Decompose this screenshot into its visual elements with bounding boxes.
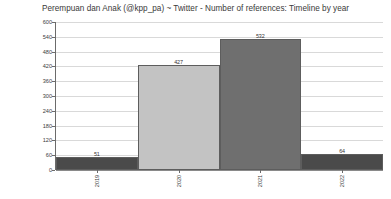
y-tick-label: 540 <box>22 34 52 40</box>
x-tick-label: 2021 <box>255 171 265 191</box>
y-tick-label: 0 <box>22 167 52 173</box>
bar[interactable]: 51 <box>56 157 138 170</box>
bar-value-label: 64 <box>302 148 382 155</box>
x-axis-ticks: 2019202020212022 <box>56 170 383 199</box>
bar-value-label: 427 <box>139 59 219 66</box>
y-tick-label: 360 <box>22 78 52 84</box>
y-tick-label: 240 <box>22 108 52 114</box>
bar-chart: Perempuan dan Anak (@kpp_pa) ~ Twitter -… <box>0 0 391 199</box>
y-tick-label: 180 <box>22 123 52 129</box>
chart-title: Perempuan dan Anak (@kpp_pa) ~ Twitter -… <box>0 4 391 13</box>
y-tick-label: 300 <box>22 93 52 99</box>
x-tick-label: 2020 <box>174 171 184 191</box>
plot-area: 5142753264 <box>56 22 383 170</box>
bar-value-label: 532 <box>221 33 301 40</box>
x-tick-label: 2019 <box>92 171 102 191</box>
y-tick-label: 120 <box>22 137 52 143</box>
bar[interactable]: 64 <box>301 154 383 170</box>
y-tick-label: 60 <box>22 152 52 158</box>
y-tick-label: 480 <box>22 49 52 55</box>
bar-value-label: 51 <box>57 151 137 158</box>
x-tick-label: 2022 <box>337 171 347 191</box>
y-tick-label: 600 <box>22 19 52 25</box>
y-tick-mark <box>52 170 55 171</box>
bar[interactable]: 427 <box>138 65 220 170</box>
bars-group: 5142753264 <box>56 22 383 170</box>
bar[interactable]: 532 <box>220 39 302 170</box>
y-tick-label: 420 <box>22 63 52 69</box>
